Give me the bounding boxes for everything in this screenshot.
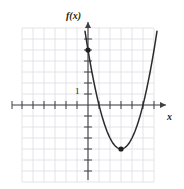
data-point-icon — [85, 47, 90, 52]
y-axis-unit-tick-label: 1 — [75, 87, 80, 96]
data-point-icon — [118, 146, 123, 151]
arrow-up-icon — [85, 22, 91, 28]
x-axis-label: x — [167, 112, 172, 122]
arrow-right-icon — [160, 102, 166, 108]
y-axis-label: f(x) — [66, 11, 81, 21]
coordinate-plane — [0, 0, 184, 189]
marked-points — [85, 47, 123, 151]
graph-figure: f(x) x 1 — [0, 0, 184, 189]
